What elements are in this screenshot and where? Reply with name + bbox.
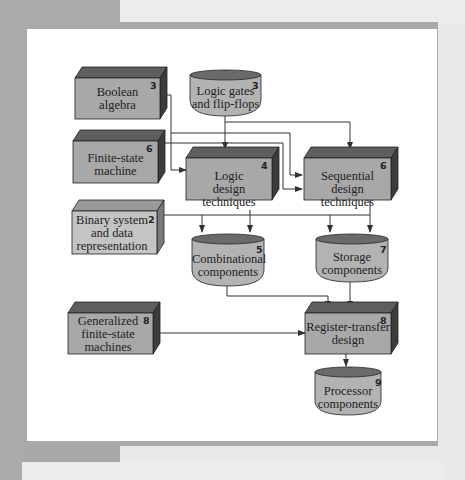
node-binary-system [72,200,164,254]
node-storage [316,234,388,282]
chapter-number: 2 [148,214,155,225]
node-generalized-fsm [68,302,160,354]
node-combinational [192,234,264,286]
node-logic-gates [190,70,261,116]
node-register-transfer [305,302,398,354]
chapter-number: 9 [375,377,382,388]
chapter-number: 6 [380,160,387,171]
chapter-number: 4 [261,160,268,171]
chapter-number: 3 [150,80,157,91]
node-processor [315,367,381,415]
chapter-number: 8 [380,315,387,326]
chapter-number: 7 [380,244,387,255]
chapter-number: 8 [143,315,150,326]
chapter-number: 5 [256,244,263,255]
chapter-number: 6 [146,143,153,154]
node-logic-design [186,147,279,200]
chapter-number: 3 [252,80,259,91]
node-finite-state-machine [73,130,165,183]
node-sequential-design [304,147,398,200]
node-boolean-algebra [75,67,167,119]
dependency-diagram [0,0,465,480]
